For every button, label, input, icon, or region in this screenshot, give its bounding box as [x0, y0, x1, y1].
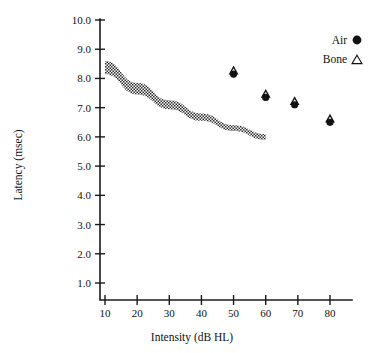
data-point-air [262, 94, 269, 101]
legend-filled-circle-icon [353, 36, 362, 45]
axis-spine [100, 19, 352, 300]
y-tick-label: 8.0 [77, 72, 91, 84]
latency-intensity-chart: 1.02.03.04.05.06.07.08.09.010.0 10203040… [0, 0, 385, 353]
y-tick-label: 7.0 [77, 102, 91, 114]
x-tick-label: 80 [325, 307, 337, 319]
legend: Air Bone [323, 34, 362, 65]
legend-label-bone: Bone [323, 53, 347, 65]
axis-lines [100, 19, 352, 300]
normative-band-shape [105, 61, 266, 140]
y-tick-label: 9.0 [77, 43, 91, 55]
chart-canvas: 1.02.03.04.05.06.07.08.09.010.0 10203040… [0, 0, 385, 353]
normative-band [105, 61, 266, 140]
x-tick-label: 10 [100, 307, 112, 319]
y-tick-label: 2.0 [77, 248, 91, 260]
data-point-air [230, 70, 237, 77]
x-tick-label: 60 [260, 307, 272, 319]
data-points [230, 67, 334, 126]
data-point-air [291, 101, 298, 108]
y-tick-label: 5.0 [77, 160, 91, 172]
y-tick-label: 10.0 [72, 14, 92, 26]
x-tick-label: 50 [228, 307, 240, 319]
legend-label-air: Air [332, 34, 348, 46]
x-axis-title: Intensity (dB HL) [151, 331, 234, 344]
y-axis-title: Latency (msec) [12, 129, 25, 200]
data-point-air [326, 119, 333, 126]
x-tick-label: 30 [164, 307, 176, 319]
x-tick-label: 40 [196, 307, 208, 319]
legend-open-triangle-icon [352, 55, 362, 63]
y-tick-label: 3.0 [77, 219, 91, 231]
y-tick-label: 6.0 [77, 131, 91, 143]
x-tick-label: 70 [292, 307, 304, 319]
x-tick-label: 20 [132, 307, 144, 319]
y-tick-label: 1.0 [77, 277, 91, 289]
y-tick-label: 4.0 [77, 189, 91, 201]
x-axis-ticks: 1020304050607080 [100, 295, 337, 319]
